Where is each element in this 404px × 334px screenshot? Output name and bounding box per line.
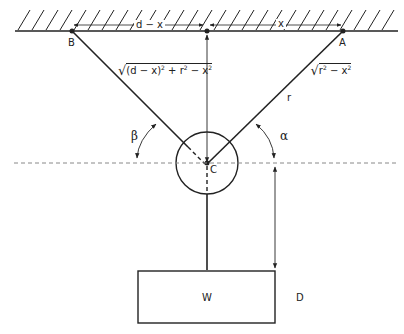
alpha-arc xyxy=(256,124,274,158)
label-A: A xyxy=(339,38,346,48)
pulley-diagram xyxy=(0,0,404,334)
label-alpha: α xyxy=(280,130,288,142)
ceiling-hatching xyxy=(18,10,394,30)
beta-arc xyxy=(137,124,156,158)
rope-BC xyxy=(72,31,188,147)
label-weight: W xyxy=(202,293,212,303)
point-mid xyxy=(205,29,210,34)
label-B: B xyxy=(68,38,75,48)
label-D: D xyxy=(296,293,304,303)
sup: 2 xyxy=(208,64,212,71)
label-C: C xyxy=(210,165,217,175)
rope-AC xyxy=(207,31,343,164)
label-length-BC: √(d − x)2 + r2 − x2 xyxy=(118,64,212,77)
expr-part: − x xyxy=(188,65,209,76)
rope-BC-dashed xyxy=(188,147,205,164)
label-beta: β xyxy=(131,130,138,142)
label-d-minus-x: d − x xyxy=(134,20,165,30)
sup: 2 xyxy=(347,64,351,71)
label-r: r xyxy=(287,93,291,103)
sqrt-symbol: √ xyxy=(311,63,319,78)
expr-part: + r xyxy=(165,65,184,76)
label-x: x xyxy=(276,19,286,29)
label-length-mid: √r2 − x2 xyxy=(311,64,352,77)
expr-part: − x xyxy=(327,65,348,76)
expr-part: (d − x) xyxy=(126,65,161,76)
